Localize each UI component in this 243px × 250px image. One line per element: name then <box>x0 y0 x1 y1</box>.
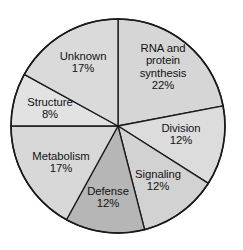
pie-chart-canvas <box>0 0 243 250</box>
pie-chart: RNA andproteinsynthesis22%Division12%Sig… <box>0 0 243 250</box>
pie-slices-group <box>11 19 225 233</box>
